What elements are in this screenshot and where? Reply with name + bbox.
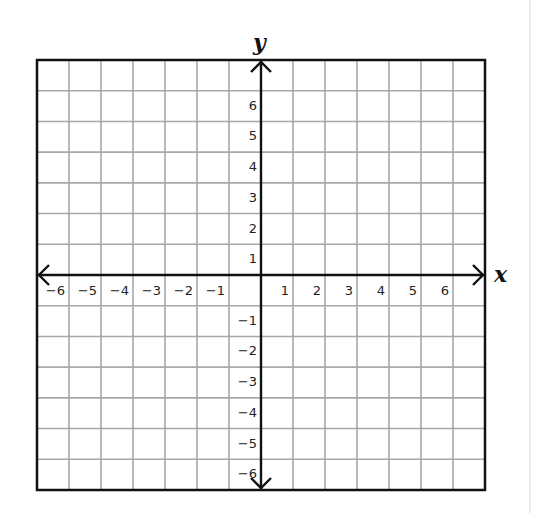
y-axis-label: y [252,29,268,55]
y-tick-label: −3 [238,374,257,389]
coordinate-plane: −6−5−4−3−2−1123456 654321−1−2−3−4−5−6 x … [0,0,539,513]
x-tick-label: 6 [441,283,449,298]
y-tick-label: −5 [238,436,257,451]
x-tick-label: 5 [409,283,417,298]
x-tick-label: −3 [142,283,161,298]
y-tick-label: 2 [249,221,257,236]
x-tick-label: 1 [281,283,289,298]
x-tick-label: −4 [110,283,129,298]
x-tick-label: 2 [313,283,321,298]
y-tick-label: −4 [238,405,257,420]
y-tick-label: 6 [249,98,257,113]
y-tick-label: −1 [238,313,257,328]
x-tick-label: −5 [78,283,97,298]
x-tick-label: −1 [206,283,225,298]
x-axis-label: x [493,261,508,287]
page-edge-divider [529,0,531,513]
axes [38,61,484,489]
y-axis-tick-labels: 654321−1−2−3−4−5−6 [238,98,257,482]
y-tick-label: −2 [238,343,257,358]
y-tick-label: 4 [249,159,257,174]
y-tick-label: 5 [249,128,257,143]
x-tick-label: 3 [345,283,353,298]
x-tick-label: −6 [46,283,65,298]
x-tick-label: 4 [377,283,385,298]
x-tick-label: −2 [174,283,193,298]
coordinate-plane-figure: −6−5−4−3−2−1123456 654321−1−2−3−4−5−6 x … [0,0,539,513]
y-tick-label: 1 [249,251,257,266]
y-tick-label: −6 [238,466,257,481]
y-tick-label: 3 [249,190,257,205]
